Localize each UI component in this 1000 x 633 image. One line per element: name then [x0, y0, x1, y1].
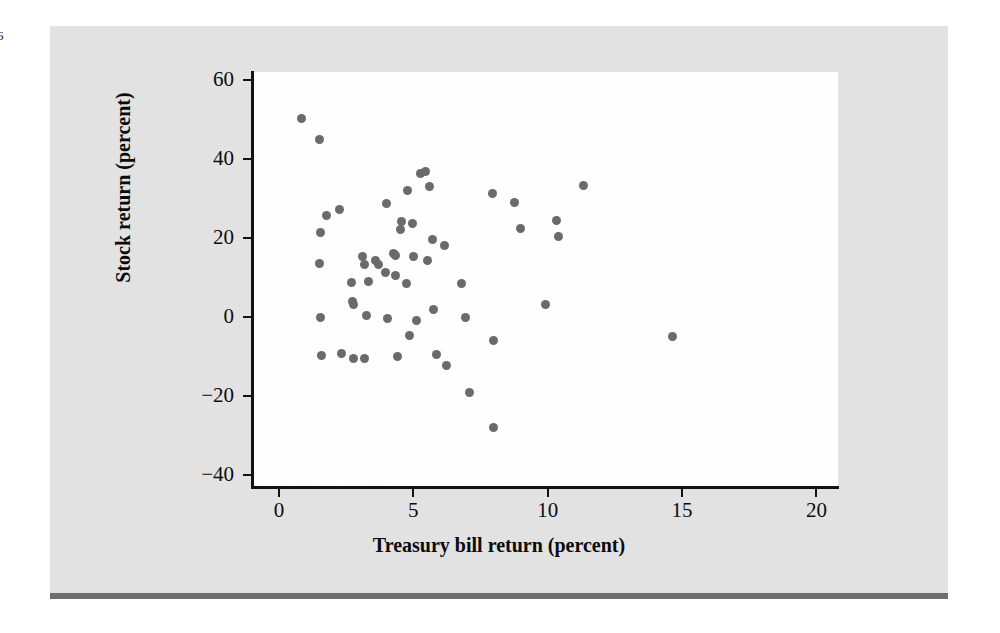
x-axis-tick-label: 20	[786, 500, 846, 521]
data-point	[316, 228, 325, 237]
y-axis-tick	[243, 316, 252, 318]
data-point	[322, 211, 331, 220]
data-point	[349, 354, 358, 363]
y-axis-tick-label: 20	[164, 227, 234, 248]
data-point	[403, 186, 412, 195]
x-axis-tick-label: 15	[652, 500, 712, 521]
page-folio-number: 6	[0, 28, 4, 44]
x-axis-tick	[547, 488, 549, 497]
x-axis-tick-label: 0	[249, 500, 309, 521]
data-point	[457, 279, 466, 288]
y-axis-title: Stock return (percent)	[112, 68, 135, 308]
y-axis-tick-label: −20	[164, 385, 234, 406]
y-axis-tick	[243, 79, 252, 81]
data-point	[337, 349, 346, 358]
x-axis-tick-label: 10	[518, 500, 578, 521]
data-point	[488, 189, 497, 198]
y-axis-tick	[243, 395, 252, 397]
data-point	[360, 354, 369, 363]
data-point	[412, 316, 421, 325]
data-point	[317, 351, 326, 360]
data-point	[432, 350, 441, 359]
data-point	[423, 256, 432, 265]
y-axis-tick-label: 60	[164, 69, 234, 90]
data-point	[442, 361, 451, 370]
data-point	[396, 225, 405, 234]
data-point	[391, 251, 400, 260]
y-axis-tick-label: −40	[164, 464, 234, 485]
y-axis-line	[251, 71, 254, 489]
x-axis-tick	[278, 488, 280, 497]
data-point	[347, 278, 356, 287]
scatter-plot: −40−200204060 05101520 Stock return (per…	[50, 26, 948, 595]
x-axis-tick	[815, 488, 817, 497]
y-axis-tick-label: 40	[164, 148, 234, 169]
y-axis-tick-label: 0	[164, 306, 234, 327]
data-point	[421, 167, 430, 176]
data-point	[408, 219, 417, 228]
plot-area	[252, 72, 838, 487]
data-point	[405, 331, 414, 340]
figure-page: 6 −40−200204060 05101520 Stock return (p…	[0, 0, 1000, 633]
data-point	[428, 235, 437, 244]
x-axis-tick	[412, 488, 414, 497]
data-point	[382, 199, 391, 208]
y-axis-tick	[243, 158, 252, 160]
y-axis-tick	[243, 474, 252, 476]
figure-bottom-rule	[50, 593, 948, 599]
data-point	[668, 332, 677, 341]
x-axis-tick	[681, 488, 683, 497]
x-axis-tick-label: 5	[383, 500, 443, 521]
data-point	[297, 114, 306, 123]
data-point	[315, 259, 324, 268]
x-axis-line	[251, 486, 839, 489]
y-axis-tick	[243, 237, 252, 239]
data-point	[383, 314, 392, 323]
x-axis-title: Treasury bill return (percent)	[50, 534, 948, 557]
figure-panel: −40−200204060 05101520 Stock return (per…	[50, 26, 948, 595]
